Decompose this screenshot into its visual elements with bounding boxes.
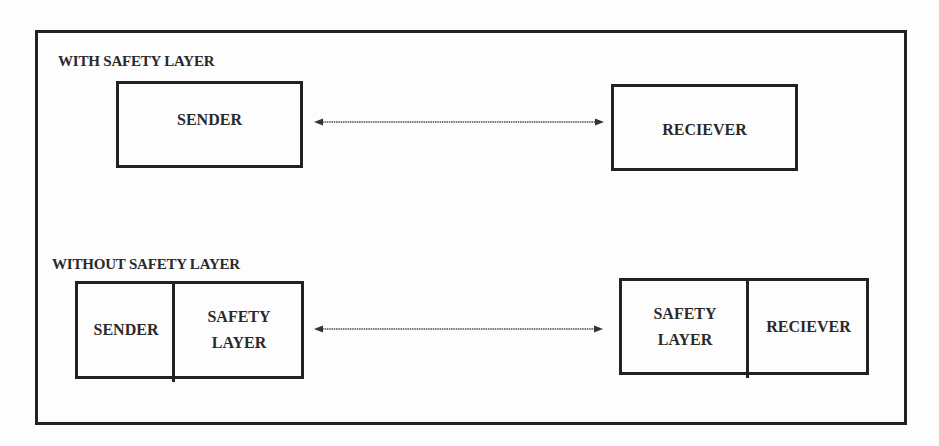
box-divider xyxy=(746,278,749,378)
bidirectional-arrow-icon xyxy=(314,116,604,128)
safety-label-line1: SAFETY xyxy=(207,304,270,330)
receiver-box: RECIEVER xyxy=(611,84,798,171)
sender-safety-box: SENDER SAFETY LAYER xyxy=(75,281,304,379)
receiver-cell: RECIEVER xyxy=(751,281,866,372)
safety-label-line1: SAFETY xyxy=(653,301,716,327)
safety-receiver-box: SAFETY LAYER RECIEVER xyxy=(619,278,869,375)
bidirectional-arrow-icon xyxy=(314,323,603,335)
with-safety-layer-title: WITH SAFETY LAYER xyxy=(58,53,214,70)
safety-label-line2: LAYER xyxy=(658,327,713,353)
sender-cell: SENDER xyxy=(78,284,174,376)
receiver-label: RECIEVER xyxy=(614,117,795,143)
without-safety-layer-title: WITHOUT SAFETY LAYER xyxy=(52,256,240,273)
sender-box: SENDER xyxy=(116,81,303,168)
safety-layer-cell-right: SAFETY LAYER xyxy=(622,281,748,372)
safety-label-line2: LAYER xyxy=(212,330,267,356)
sender-label: SENDER xyxy=(119,107,300,133)
box-divider xyxy=(172,281,175,382)
receiver-cell-label: RECIEVER xyxy=(766,314,850,340)
sender-cell-label: SENDER xyxy=(94,317,159,343)
safety-layer-cell-left: SAFETY LAYER xyxy=(177,284,301,376)
